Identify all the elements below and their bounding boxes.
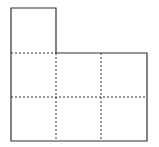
outer-outline <box>11 8 147 141</box>
l-shape-grid-diagram <box>0 0 159 147</box>
